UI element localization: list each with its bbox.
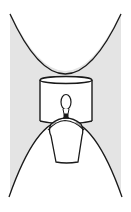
- lamp-diagram: [0, 0, 131, 212]
- lamp-illustration: [0, 0, 131, 212]
